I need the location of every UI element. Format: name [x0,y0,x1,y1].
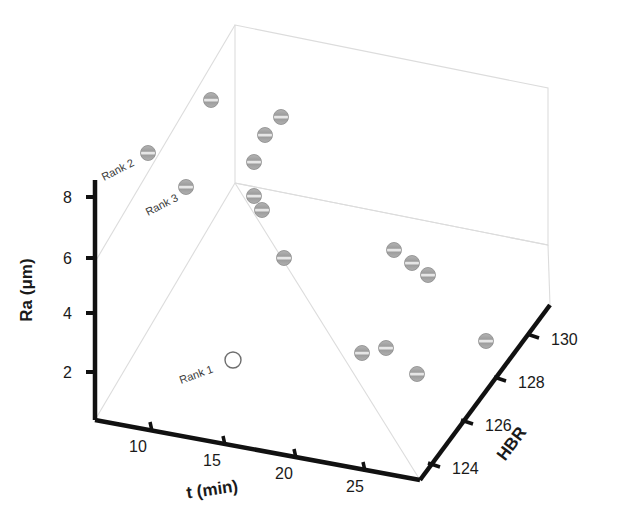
data-point[interactable] [479,334,494,349]
data-point[interactable] [277,251,292,266]
data-point[interactable] [410,367,425,382]
marker-circle [258,128,273,143]
box-edge-floor-diag-left [235,183,420,480]
x-axis: 10 15 20 25 t (min) [95,420,420,503]
z-tick-label-124: 124 [452,460,479,477]
x-tick-25 [363,462,365,471]
marker-circle [277,251,292,266]
x-tick-10 [150,422,152,431]
z-tick-130 [527,334,539,338]
data-points-layer [141,93,494,382]
marker-circle [355,346,370,361]
x-tick-label-15: 15 [203,452,221,469]
data-point[interactable] [255,203,270,218]
y-tick-label-2: 2 [63,364,72,381]
marker-circle [255,203,270,218]
z-tick-label-130: 130 [551,331,578,348]
data-point[interactable] [258,128,273,143]
rank-annotations-layer: Rank 2Rank 3Rank 1 [99,156,214,386]
x-tick-label-10: 10 [129,438,147,455]
data-point[interactable] [405,256,420,271]
data-point-highlighted[interactable] [225,352,241,368]
marker-circle [405,256,420,271]
marker-circle [274,110,289,125]
x-tick-20 [294,449,296,458]
data-point[interactable] [247,155,262,170]
marker-circle [387,243,402,258]
z-axis-line [420,305,550,480]
box-edge-right-vertical-short [548,245,550,305]
figure-root: 8 6 4 2 Ra (μm) 10 15 20 25 t (min) [0,0,618,516]
x-tick-label-20: 20 [275,465,293,482]
x-tick-label-25: 25 [346,478,364,495]
y-tick-label-6: 6 [63,250,72,267]
marker-circle [179,180,194,195]
marker-circle [421,268,436,283]
marker-circle [141,146,156,161]
z-tick-label-128: 128 [518,374,545,391]
data-point[interactable] [355,346,370,361]
data-point[interactable] [274,110,289,125]
x-tick-15 [223,436,225,445]
data-point[interactable] [421,268,436,283]
box-back-face [235,25,548,245]
marker-circle [247,189,262,204]
y-tick-label-8: 8 [63,189,72,206]
box-edge-top-left [95,25,235,262]
marker-circle [204,93,219,108]
rank-annotation-3: Rank 1 [178,363,215,386]
plot-box-wireframe [95,25,550,480]
marker-circle [225,352,241,368]
marker-circle [247,155,262,170]
scatter-3d-plot: 8 6 4 2 Ra (μm) 10 15 20 25 t (min) [0,0,618,516]
data-point[interactable] [141,146,156,161]
marker-circle [410,367,425,382]
data-point[interactable] [204,93,219,108]
marker-circle [479,334,494,349]
box-edge-floor-back [235,183,548,245]
x-axis-title: t (min) [185,477,239,503]
plot-box-floor-front [95,305,550,480]
y-axis-title: Ra (μm) [17,258,36,321]
y-axis: 8 6 4 2 Ra (μm) [17,180,95,420]
data-point[interactable] [379,341,394,356]
data-point[interactable] [387,243,402,258]
rank-annotation-1: Rank 2 [99,156,136,183]
marker-circle [379,341,394,356]
z-axis: 124 126 128 130 HBR [420,305,578,480]
box-edge-bottom-left [95,183,235,420]
data-point[interactable] [247,189,262,204]
data-point[interactable] [179,180,194,195]
y-tick-label-4: 4 [63,305,72,322]
rank-annotation-2: Rank 3 [143,191,180,218]
